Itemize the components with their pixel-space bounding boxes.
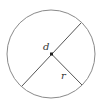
- circle-diagram: d r: [0, 0, 99, 110]
- radius-label: r: [61, 70, 67, 81]
- diagram-canvas: d r: [0, 0, 99, 110]
- diameter-label: d: [43, 41, 49, 52]
- center-dot: [50, 53, 53, 56]
- radius-line: [52, 54, 83, 85]
